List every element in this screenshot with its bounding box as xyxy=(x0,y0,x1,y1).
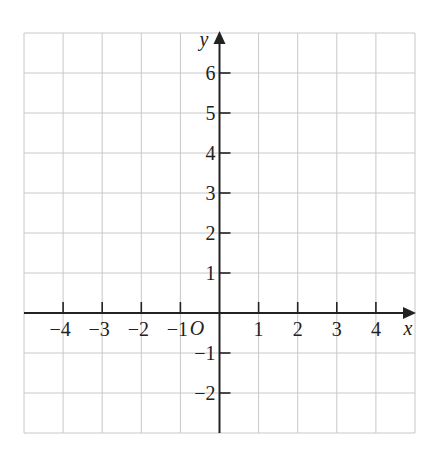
y-tick-label: 6 xyxy=(206,62,216,84)
x-tick-label: 2 xyxy=(293,318,303,340)
x-tick-label: 1 xyxy=(254,318,264,340)
y-tick-label: 4 xyxy=(206,142,216,164)
origin-label: O xyxy=(190,317,204,339)
y-tick-label: 3 xyxy=(206,182,216,204)
y-tick-label: −2 xyxy=(194,382,215,404)
y-tick-label: 5 xyxy=(206,102,216,124)
x-tick-label: −4 xyxy=(49,318,70,340)
y-tick-label: 1 xyxy=(206,262,216,284)
x-tick-label: 3 xyxy=(332,318,342,340)
x-axis-label: x xyxy=(403,317,413,339)
y-tick-label: −1 xyxy=(194,342,215,364)
coordinate-grid-diagram: −4−3−2−11234 654321−1−2 O x y xyxy=(0,0,435,456)
x-tick-labels: −4−3−2−11234 xyxy=(49,318,380,340)
x-tick-label: 4 xyxy=(371,318,381,340)
y-tick-label: 2 xyxy=(206,222,216,244)
x-tick-label: −2 xyxy=(128,318,149,340)
axes xyxy=(24,31,416,433)
y-axis-label: y xyxy=(198,28,209,51)
x-tick-label: −3 xyxy=(89,318,110,340)
x-tick-label: −1 xyxy=(167,318,188,340)
